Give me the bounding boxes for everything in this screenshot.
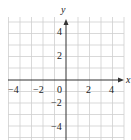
- y-tick-label: −4: [51, 122, 62, 132]
- y-tick-label: 4: [57, 27, 62, 37]
- x-tick-label: 4: [109, 85, 114, 95]
- x-arrow-icon: [118, 78, 124, 83]
- x-tick-label: 0: [57, 85, 62, 95]
- x-axis-label: x: [126, 75, 130, 85]
- x-tick-label: 2: [86, 85, 91, 95]
- x-tick-label: −4: [8, 85, 19, 95]
- y-tick-label: 2: [57, 51, 62, 61]
- y-tick-label: −2: [51, 98, 62, 108]
- grid-svg: [0, 0, 131, 140]
- y-axis-label: y: [61, 5, 65, 15]
- x-tick-label: −2: [33, 85, 44, 95]
- coordinate-plane: y x −4 −2 0 2 4 4 2 −2 −4: [0, 0, 131, 140]
- axes: [8, 22, 121, 140]
